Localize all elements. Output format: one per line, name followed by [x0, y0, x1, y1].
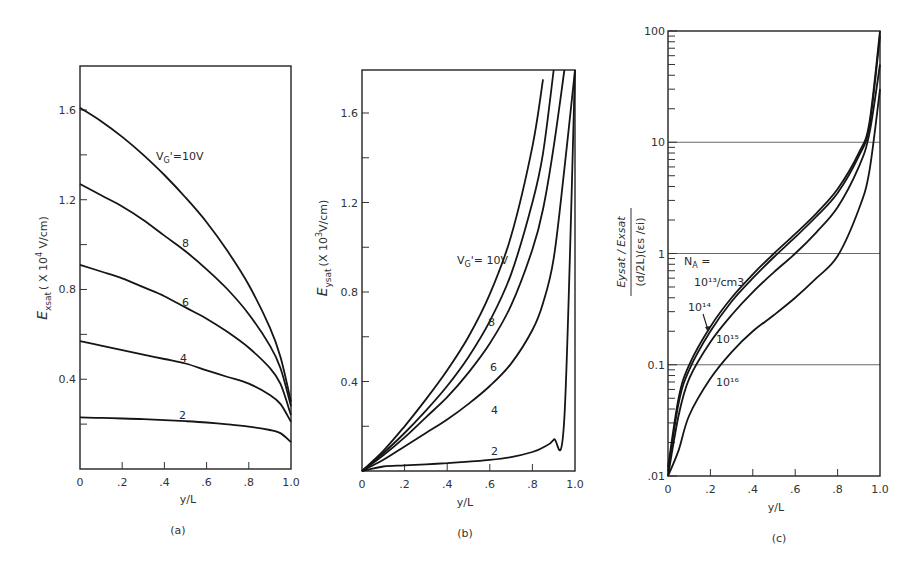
panel-b-y-ticks: 0.40.81.21.6 [341, 107, 370, 426]
x-tick-label: 0 [359, 478, 366, 491]
x-tick-label: .8 [527, 478, 538, 491]
y-tick-label: 0.4 [341, 376, 359, 389]
y-tick-label: 1.2 [59, 194, 77, 207]
panel-b-curve-label-6: 6 [490, 361, 497, 374]
y-tick-label: 10 [651, 136, 665, 149]
panel-b: 0.40.81.21.6 0.2.4.6.81.0 VG'= 10V 8 6 4… [314, 70, 584, 540]
panel-b-curve-label-8: 8 [488, 316, 495, 329]
panel-a-y-ticks: 0.40.81.21.6 [59, 104, 88, 424]
panel-c-caption: (c) [772, 532, 787, 545]
svg-text:Exsat( X 104 V/cm): Exsat( X 104 V/cm) [34, 216, 53, 320]
panel-b-caption: (b) [457, 527, 473, 540]
panel-a: 0.40.81.21.6 0.2.4.6.81.0 VG'=10V 8 6 4 … [34, 66, 300, 537]
panel-b-curve-label-4: 4 [491, 404, 498, 417]
x-tick-label: .8 [832, 483, 843, 496]
panel-c: .010.1110100 0.2.4.6.81.0 NA = 10¹³/cm3 … [615, 25, 889, 545]
y-tick-label: .01 [648, 470, 666, 483]
panel-c-curve-label-1e14: 10¹⁴ [688, 301, 711, 314]
curve-2 [362, 70, 575, 471]
x-tick-label: .2 [705, 483, 716, 496]
x-tick-label: 1.0 [282, 476, 300, 489]
panel-b-curve-label-10v: VG'= 10V [457, 254, 508, 269]
y-tick-label: 100 [644, 25, 665, 38]
panel-a-curve-label-4: 4 [180, 352, 187, 365]
figure: 0.40.81.21.6 0.2.4.6.81.0 VG'=10V 8 6 4 … [0, 0, 919, 573]
y-tick-label: 0.8 [341, 286, 359, 299]
y-tick-label: 0.1 [648, 359, 666, 372]
panel-c-y-axis-label: Eysat / Exsat (d/2L)(εs /εi) [615, 208, 647, 296]
panel-b-x-ticks: 0.2.4.6.81.0 [359, 464, 584, 491]
curve-10-15 [668, 65, 880, 477]
panel-c-x-ticks: 0.2.4.6.81.0 [665, 469, 889, 496]
x-tick-label: 1.0 [566, 478, 584, 491]
y-tick-label: 1.6 [59, 104, 77, 117]
panel-c-x-axis-label: y/L [768, 501, 785, 514]
curve-6 [80, 265, 291, 415]
y-tick-label: 1 [658, 248, 665, 261]
x-tick-label: .6 [790, 483, 801, 496]
panel-a-curve-label-10v: VG'=10V [156, 150, 204, 165]
y-tick-label: 0.4 [59, 373, 77, 386]
y-tick-label: 0.8 [59, 283, 77, 296]
panel-a-y-axis-label: Exsat( X 104 V/cm) [34, 216, 53, 320]
panel-c-curve-label-1e16: 10¹⁶ [716, 376, 739, 389]
x-tick-label: .6 [485, 478, 496, 491]
panel-a-x-axis-label: y/L [180, 493, 197, 506]
x-tick-label: .8 [244, 476, 255, 489]
x-tick-label: .4 [442, 478, 453, 491]
x-tick-label: 0 [77, 476, 84, 489]
x-tick-label: .6 [201, 476, 212, 489]
panel-b-curve-label-2: 2 [491, 445, 498, 458]
panel-a-curve-label-8: 8 [182, 237, 189, 250]
x-tick-label: 1.0 [871, 483, 889, 496]
panel-b-x-axis-label: y/L [457, 496, 474, 509]
x-tick-label: .2 [399, 478, 410, 491]
panel-c-curve-label-1e15: 10¹⁵ [716, 333, 739, 346]
panel-b-y-axis-label: Eysat(X 103V/cm) [314, 200, 333, 297]
panel-c-curve-label-1e13: 10¹³/cm3 [694, 276, 744, 289]
svg-text:Eysat(X 103V/cm): Eysat(X 103V/cm) [314, 200, 333, 297]
x-tick-label: .4 [159, 476, 170, 489]
x-tick-label: .2 [117, 476, 128, 489]
svg-text:(d/2L)(εs /εi): (d/2L)(εs /εi) [634, 218, 647, 287]
curve-4 [362, 70, 575, 471]
svg-text:Eysat / Exsat: Eysat / Exsat [615, 216, 628, 288]
y-tick-label: 1.2 [341, 197, 359, 210]
x-tick-label: .4 [748, 483, 759, 496]
panel-a-caption: (a) [170, 524, 185, 537]
panel-b-curves [362, 70, 575, 471]
x-tick-label: 0 [665, 483, 672, 496]
panel-c-y-ticks: .010.1110100 [644, 25, 677, 483]
panel-a-x-ticks: 0.2.4.6.81.0 [77, 462, 300, 489]
panel-b-frame [362, 70, 575, 471]
curve-na-10-13-cm3 [668, 31, 880, 467]
panel-c-legend-title: NA = [684, 255, 710, 270]
curve-v-g-10v [362, 79, 543, 471]
panel-a-curve-label-2: 2 [179, 409, 186, 422]
curve-6 [362, 70, 564, 471]
y-tick-label: 1.6 [341, 107, 359, 120]
panel-a-curve-label-6: 6 [182, 296, 189, 309]
